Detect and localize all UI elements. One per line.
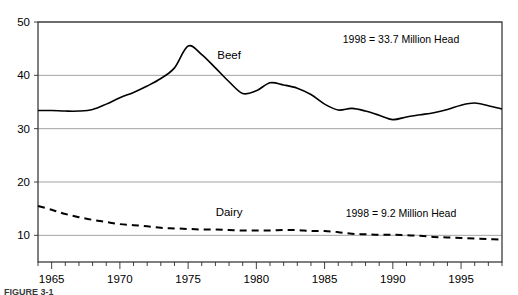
livestock-inventory-line-chart: 1020304050 1965197019751980198519901995 … — [0, 0, 518, 295]
y-axis-tick-labels: 1020304050 — [17, 16, 30, 241]
plot-area-background — [38, 22, 502, 262]
x-tick-label-1980: 1980 — [244, 273, 270, 285]
x-tick-label-1990: 1990 — [380, 273, 406, 285]
x-tick-label-1970: 1970 — [107, 273, 133, 285]
x-tick-label-1995: 1995 — [448, 273, 474, 285]
series-label-beef: Beef — [217, 49, 241, 61]
x-axis-ticks — [38, 262, 502, 269]
figure-container: 1020304050 1965197019751980198519901995 … — [0, 0, 518, 295]
series-label-dairy: Dairy — [216, 206, 243, 218]
figure-caption: FIGURE 3-1 — [4, 287, 54, 295]
y-tick-label-40: 40 — [17, 69, 30, 81]
x-tick-label-1965: 1965 — [39, 273, 65, 285]
y-tick-label-10: 10 — [17, 229, 30, 241]
x-tick-label-1985: 1985 — [312, 273, 338, 285]
y-tick-label-20: 20 — [17, 176, 30, 188]
y-tick-label-50: 50 — [17, 16, 30, 28]
beef-annotation: 1998 = 33.7 Million Head — [343, 33, 460, 45]
dairy-annotation: 1998 = 9.2 Million Head — [346, 207, 457, 219]
x-axis-tick-labels: 1965197019751980198519901995 — [39, 273, 474, 285]
y-tick-label-30: 30 — [17, 123, 30, 135]
x-tick-label-1975: 1975 — [175, 273, 201, 285]
